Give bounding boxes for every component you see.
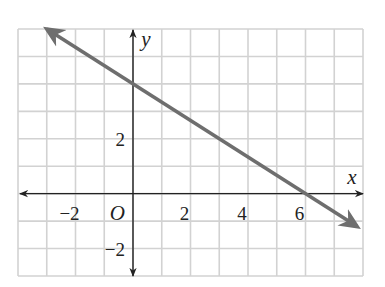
data-line xyxy=(47,29,358,227)
x-tick-label: 4 xyxy=(237,203,247,224)
line-y-equals-neg-two-thirds-x-plus-4 xyxy=(47,29,358,227)
y-axis-label: y xyxy=(139,27,151,51)
grid-lines xyxy=(18,29,363,276)
origin-label: O xyxy=(110,201,125,225)
graph-svg: −22462−2Oxy xyxy=(0,0,385,287)
y-tick-label: 2 xyxy=(116,129,126,150)
y-tick-label: −2 xyxy=(105,239,125,260)
x-tick-label: 6 xyxy=(295,203,305,224)
axes xyxy=(20,30,363,276)
coordinate-plane-graph: −22462−2Oxy xyxy=(0,0,385,287)
x-axis-label: x xyxy=(346,165,357,189)
x-tick-label: −2 xyxy=(59,203,79,224)
x-tick-label: 2 xyxy=(180,203,190,224)
